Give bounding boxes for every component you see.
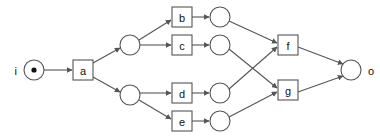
- node-label-c: c: [179, 40, 185, 52]
- node-g[interactable]: g: [278, 80, 298, 100]
- edge-f-to-o: [298, 47, 343, 64]
- node-shape-circle-n5: [210, 83, 230, 103]
- edge-n6-to-g: [229, 92, 277, 117]
- node-shape-circle-n6: [210, 111, 230, 131]
- node-shape-circle-n4: [210, 35, 230, 55]
- edge-n2-to-e: [139, 100, 171, 119]
- edge-g-to-o: [298, 76, 343, 92]
- node-shape-circle-n1: [120, 35, 140, 55]
- start-token-dot-icon: [31, 67, 36, 72]
- edge-n1-to-b: [139, 20, 171, 40]
- node-n4[interactable]: [210, 35, 230, 55]
- graph-svg: iabcdefgo: [0, 0, 380, 140]
- node-o[interactable]: o: [341, 60, 374, 80]
- node-n6[interactable]: [210, 111, 230, 131]
- edge-a-to-n1: [93, 48, 120, 63]
- node-a[interactable]: a: [73, 60, 93, 80]
- node-i[interactable]: i: [15, 60, 44, 80]
- node-label-i: i: [15, 65, 17, 77]
- node-c[interactable]: c: [172, 35, 192, 55]
- node-f[interactable]: f: [278, 35, 298, 55]
- edge-n3-to-f: [229, 21, 277, 43]
- node-n1[interactable]: [120, 35, 140, 55]
- node-shape-circle-n3: [210, 7, 230, 27]
- node-n5[interactable]: [210, 83, 230, 103]
- node-label-b: b: [179, 12, 185, 24]
- diagram-canvas: iabcdefgo: [0, 0, 380, 140]
- node-n3[interactable]: [210, 7, 230, 27]
- node-shape-circle-o: [341, 60, 361, 80]
- edge-a-to-n2: [93, 77, 120, 92]
- node-b[interactable]: b: [172, 7, 192, 27]
- node-n2[interactable]: [120, 85, 140, 105]
- node-label-a: a: [80, 65, 87, 77]
- node-shape-circle-n2: [120, 85, 140, 105]
- node-label-o: o: [368, 65, 374, 77]
- node-d[interactable]: d: [172, 83, 192, 103]
- node-e[interactable]: e: [172, 111, 192, 131]
- node-label-e: e: [179, 116, 185, 128]
- node-label-g: g: [285, 85, 291, 97]
- node-label-d: d: [179, 88, 185, 100]
- node-layer: iabcdefgo: [15, 7, 375, 131]
